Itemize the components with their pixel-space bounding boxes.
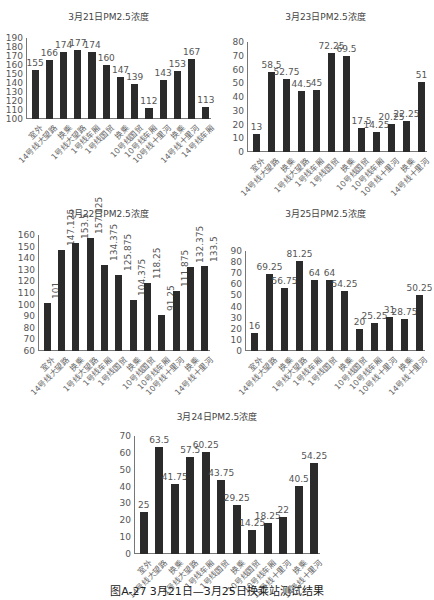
y-tick-label: 10 xyxy=(222,133,244,143)
value-label: 155 xyxy=(27,58,44,68)
y-tick-label: 130 xyxy=(13,265,35,275)
value-label: 44.5 xyxy=(291,79,311,89)
value-label: 52.75 xyxy=(274,67,300,77)
value-label: 63.5 xyxy=(149,435,169,445)
y-tick-label: 10 xyxy=(109,532,131,542)
value-label: 125.875 xyxy=(123,233,133,270)
bar xyxy=(279,517,287,554)
value-label: 167 xyxy=(183,47,200,57)
y-axis xyxy=(26,38,27,119)
chart-mar24: 3月24日PM2.5浓度 01020304050607025室外63.514号线… xyxy=(100,400,334,595)
y-tick-label: 70 xyxy=(220,268,242,278)
bar xyxy=(296,261,304,351)
y-tick-label: 30 xyxy=(109,498,131,508)
value-label: 81.25 xyxy=(287,249,313,259)
y-tick-label: 30 xyxy=(220,313,242,323)
y-tick-label: 20 xyxy=(109,515,131,525)
bar xyxy=(403,121,411,152)
bar xyxy=(341,291,349,351)
value-label: 69.5 xyxy=(336,44,356,54)
bar xyxy=(217,480,225,554)
y-tick-label: 70 xyxy=(13,334,35,344)
bar xyxy=(343,56,351,152)
y-tick-label: 180 xyxy=(1,42,23,52)
value-label: 45 xyxy=(311,78,322,88)
bar xyxy=(202,107,209,119)
value-label: 157.125 xyxy=(94,197,104,234)
bar xyxy=(87,238,94,351)
bar xyxy=(131,84,138,119)
bar xyxy=(418,82,426,152)
value-label: 160 xyxy=(98,53,115,63)
bar xyxy=(187,267,194,351)
y-tick-label: 60 xyxy=(109,448,131,458)
plot-area: 01020304050607025室外63.514号线大望路41.75换乘57.… xyxy=(134,436,320,554)
bar xyxy=(328,53,336,152)
bar xyxy=(298,91,306,152)
y-tick-label: 10 xyxy=(220,335,242,345)
bar xyxy=(264,523,272,554)
figure-caption: 图A-27 3月21日—3月25日换乘站测试结果 xyxy=(0,582,434,598)
y-tick-label: 0 xyxy=(222,147,244,157)
value-label: 54.25 xyxy=(332,279,358,289)
bar xyxy=(356,329,364,351)
y-tick-label: 110 xyxy=(1,105,23,115)
y-tick-label: 20 xyxy=(220,324,242,334)
bar xyxy=(386,317,394,351)
bar xyxy=(155,447,163,554)
bar xyxy=(371,323,379,351)
y-tick-label: 140 xyxy=(1,78,23,88)
bar xyxy=(60,52,67,119)
bar xyxy=(72,243,79,351)
y-tick-label: 120 xyxy=(13,276,35,286)
y-tick-label: 100 xyxy=(13,300,35,310)
plot-area: 0102030405060708013室外58.514号线大望路52.75换乘4… xyxy=(247,42,427,152)
bar xyxy=(311,280,319,351)
bar xyxy=(140,512,148,554)
bar xyxy=(174,71,181,119)
y-tick-label: 20 xyxy=(222,120,244,130)
y-tick-label: 60 xyxy=(220,279,242,289)
value-label: 54.25 xyxy=(301,451,327,461)
bar xyxy=(171,484,179,554)
y-tick-label: 70 xyxy=(222,51,244,61)
value-label: 134.375 xyxy=(109,224,119,261)
bar xyxy=(115,275,122,351)
plot-area: 100110120130140150160170180190155室外16614… xyxy=(26,38,211,119)
bar xyxy=(145,108,152,119)
bar xyxy=(326,280,334,351)
bar xyxy=(253,134,261,152)
bar xyxy=(388,124,396,152)
y-tick-label: 120 xyxy=(1,96,23,106)
y-tick-label: 80 xyxy=(222,37,244,47)
bar xyxy=(313,90,321,152)
y-tick-label: 190 xyxy=(1,33,23,43)
value-label: 28.75 xyxy=(392,307,418,317)
y-tick-label: 50 xyxy=(222,78,244,88)
value-label: 69.25 xyxy=(257,262,283,272)
bar xyxy=(295,486,303,554)
bar xyxy=(117,77,124,119)
bar xyxy=(173,291,180,351)
plot-area: 60708090100110120130140150160101室外147.12… xyxy=(38,235,210,351)
y-tick-label: 40 xyxy=(222,92,244,102)
bar xyxy=(188,59,195,119)
chart-mar21: 3月21日PM2.5浓度 100110120130140150160170180… xyxy=(0,0,217,195)
y-axis xyxy=(38,235,39,351)
y-tick-label: 0 xyxy=(220,346,242,356)
y-tick-label: 0 xyxy=(109,549,131,559)
chart-title: 3月25日PM2.5浓度 xyxy=(217,207,434,220)
value-label: 139 xyxy=(126,72,143,82)
chart-title: 3月22日PM2.5浓度 xyxy=(0,207,217,220)
value-label: 143 xyxy=(155,68,172,78)
y-tick-label: 90 xyxy=(220,246,242,256)
value-label: 113 xyxy=(197,95,214,105)
bar xyxy=(310,463,318,554)
value-label: 51 xyxy=(416,70,427,80)
y-tick-label: 50 xyxy=(220,290,242,300)
chart-mar22: 3月22日PM2.5浓度 607080901001101201301401501… xyxy=(0,195,217,390)
bar xyxy=(160,80,167,119)
bar xyxy=(58,250,65,351)
value-label: 16 xyxy=(249,321,260,331)
bar xyxy=(201,266,208,351)
